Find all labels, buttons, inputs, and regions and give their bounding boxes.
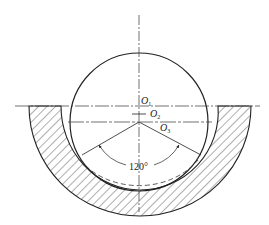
radial-line-left (82, 122, 139, 155)
label-o3: O3 (160, 122, 170, 134)
label-o1: O1 (141, 95, 151, 107)
ball-socket-diagram: O1 O2 O3 120° (0, 0, 269, 225)
angle-arc-right (154, 145, 179, 165)
angle-arc-left (99, 145, 126, 165)
label-o2: O2 (150, 108, 160, 120)
angle-label: 120° (129, 161, 148, 172)
radial-line-right (139, 122, 201, 155)
